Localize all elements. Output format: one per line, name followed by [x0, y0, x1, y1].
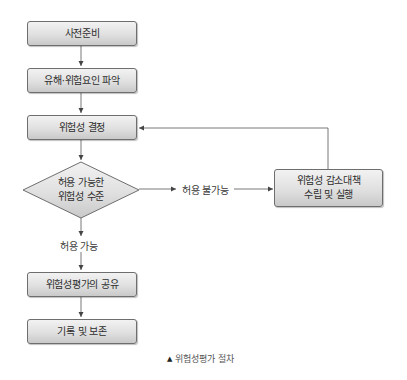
edge-label-not-acceptable: 허용 불가능 — [182, 182, 228, 197]
decision-label-line1: 허용 가능한 — [23, 176, 139, 190]
triangle-marker-icon: ▲ — [167, 355, 172, 363]
node-share: 위험성평가의 공유 — [27, 272, 137, 297]
arrow-reduce-to-determine — [139, 128, 328, 169]
node-identify-hazards: 유해·위험요인 파악 — [27, 68, 137, 93]
node-identify-hazards-label: 유해·위험요인 파악 — [44, 74, 119, 88]
node-reduce-risk: 위험성 감소대책 수립 및 실행 — [274, 169, 383, 207]
edge-label-acceptable: 허용 가능 — [60, 238, 98, 253]
node-share-label: 위험성평가의 공유 — [46, 278, 118, 292]
node-determine-risk-label: 위험성 결정 — [59, 121, 105, 135]
node-reduce-risk-line2: 수립 및 실행 — [304, 188, 353, 202]
caption-text: 위험성평가 절차 — [175, 352, 234, 365]
node-determine-risk: 위험성 결정 — [27, 115, 137, 140]
node-record-label: 기록 및 보존 — [57, 325, 106, 339]
figure-caption: ▲ 위험성평가 절차 — [167, 352, 234, 365]
decision-label: 허용 가능한 위험성 수준 — [23, 176, 139, 204]
node-prepare-label: 사전준비 — [65, 27, 100, 41]
node-record: 기록 및 보존 — [27, 319, 137, 344]
node-reduce-risk-line1: 위험성 감소대책 — [297, 174, 361, 188]
decision-label-line2: 위험성 수준 — [23, 190, 139, 204]
node-prepare: 사전준비 — [27, 21, 137, 46]
